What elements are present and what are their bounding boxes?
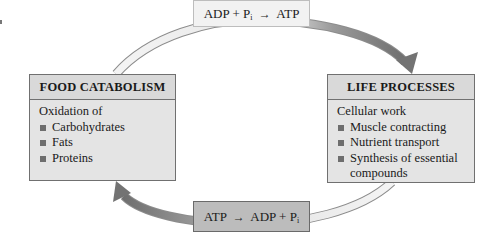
life-processes-title: LIFE PROCESSES <box>328 75 474 100</box>
food-catabolism-box: FOOD CATABOLISM Oxidation of Carbohydrat… <box>29 74 176 181</box>
food-catabolism-list: Carbohydrates Fats Proteins <box>39 120 166 167</box>
reaction-arrow-icon: → <box>233 202 245 232</box>
list-item: Muscle contracting <box>337 120 465 136</box>
bullet-square-icon <box>338 140 344 146</box>
bullet-square-icon <box>40 125 46 131</box>
list-item: Fats <box>39 135 166 151</box>
list-item: Proteins <box>39 151 166 167</box>
bullet-square-icon <box>40 140 46 146</box>
bullet-square-icon <box>40 156 46 162</box>
life-processes-intro: Cellular work <box>337 104 465 120</box>
bullet-square-icon <box>338 125 344 131</box>
atp-synthesis-equation: ADP + Pi → ATP <box>193 0 310 27</box>
list-item: Nutrient transport <box>337 135 465 151</box>
bullet-square-icon <box>338 156 344 162</box>
food-catabolism-title: FOOD CATABOLISM <box>30 75 175 100</box>
reaction-arrow-icon: → <box>259 1 271 27</box>
list-item: Synthesis of essential compounds <box>337 151 465 182</box>
life-processes-box: LIFE PROCESSES Cellular work Muscle cont… <box>327 74 475 183</box>
atp-hydrolysis-equation: ATP → ADP + Pi <box>193 201 310 232</box>
life-processes-list: Muscle contracting Nutrient transport Sy… <box>337 120 465 182</box>
top-arc-arrow <box>116 20 418 74</box>
food-catabolism-intro: Oxidation of <box>39 104 166 120</box>
list-item: Carbohydrates <box>39 120 166 136</box>
